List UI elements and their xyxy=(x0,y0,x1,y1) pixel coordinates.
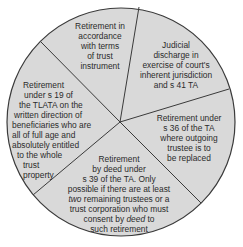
segment-tlata-s19-line: all of full age and xyxy=(10,130,106,140)
segment-tlata-s19-line: written direction of xyxy=(10,110,106,120)
segment-tlata-s19-line: absolutely entitled xyxy=(10,140,106,150)
segment-judicial-discharge: Judicial discharge in exercise of court'… xyxy=(130,40,222,90)
segment-s39-text-2: remaining trustees or a trust corporatio… xyxy=(70,194,170,224)
segment-tlata-s19-retirement: Retirementunder s 19 ofthe TLATA on thew… xyxy=(10,70,106,190)
segment-s39-text-deed: deed xyxy=(126,214,145,224)
segment-tlata-s19-line: property xyxy=(10,170,106,180)
segment-tlata-s19-lines: Retirementunder s 19 ofthe TLATA on thew… xyxy=(10,80,106,180)
segment-tlata-s19-line: trust xyxy=(10,160,106,170)
segment-s39-text-two: two xyxy=(68,194,81,204)
segment-tlata-s19-line: the TLATA on the xyxy=(10,100,106,110)
segment-tlata-s19-line: to the whole xyxy=(10,150,106,160)
segment-tlata-s19-line: beneficiaries who are xyxy=(10,120,106,130)
segment-tlata-s19-line: under s 19 of xyxy=(10,90,106,100)
segment-trust-instrument: Retirement in accordance with terms of t… xyxy=(64,21,136,71)
segment-tlata-s19-line: Retirement xyxy=(10,80,106,90)
retirement-pie-diagram: Retirement in accordance with terms of t… xyxy=(0,0,243,247)
